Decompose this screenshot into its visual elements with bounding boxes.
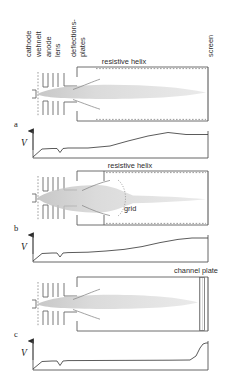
panel-b: resistive helix (14, 161, 208, 233)
label-resistive-helix-b: resistive helix (108, 161, 153, 170)
electron-beam-b (37, 185, 206, 213)
label-grid-b: grid (124, 204, 136, 213)
channel-plate-element-c (200, 278, 205, 331)
panel-c: channel plate (14, 266, 218, 339)
cathode-electrode-c (32, 300, 36, 308)
axis-label-v-b: V (21, 242, 28, 252)
electron-beam-a (37, 85, 206, 99)
panel-letter-b: b (14, 223, 18, 233)
label-plates: plates (78, 37, 87, 57)
label-lens: lens (53, 43, 62, 57)
potential-graph-a: V (21, 131, 208, 158)
label-screen: screen (206, 35, 215, 57)
beam-trace-lower-c (73, 310, 100, 320)
cathode-electrode-a (32, 90, 36, 98)
potential-graph-b: V (21, 235, 208, 262)
label-resistive-helix-a: resistive helix (102, 57, 147, 66)
beam-trace-lower-a (73, 100, 100, 110)
potential-curve-c (33, 343, 208, 369)
label-cathode: cathode (24, 31, 33, 57)
label-deflections: deflections- (69, 19, 78, 57)
graph-frame-c (33, 341, 208, 370)
label-channel-plate-c: channel plate (174, 266, 218, 275)
electron-beam-c (37, 295, 198, 309)
cathode-electrode-b (32, 194, 36, 202)
label-wehnelt: wehnelt (34, 32, 43, 58)
panel-letter-a: a (14, 119, 18, 129)
potential-curve-a (33, 133, 208, 158)
panel-letter-c: c (14, 329, 18, 339)
panel-a: resistive helix (14, 57, 208, 129)
top-label-group: cathode wehnelt anode lens deflections- … (24, 19, 215, 58)
potential-curve-b (33, 238, 208, 261)
graph-frame-a (33, 131, 208, 158)
axis-label-v-c: V (21, 348, 28, 358)
label-anode: anode (44, 36, 53, 57)
figure-canvas: cathode wehnelt anode lens deflections- … (0, 0, 240, 379)
axis-label-v-a: V (21, 138, 28, 148)
potential-graph-c: V (21, 341, 208, 370)
